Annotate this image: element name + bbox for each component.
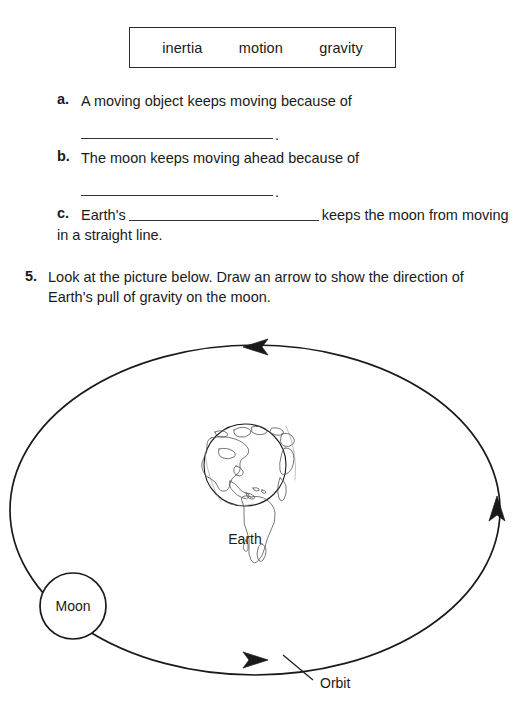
answer-period-a: . xyxy=(275,130,279,140)
fill-in-item-a: a. A moving object keeps moving because … xyxy=(57,91,512,111)
question-text: Look at the picture below. Draw an arrow… xyxy=(48,268,505,307)
item-marker-c: c. xyxy=(57,205,69,221)
item-text-c: Earth'skeeps the moon from moving in a s… xyxy=(57,207,509,243)
worksheet-page: inertia motion gravity a. A moving objec… xyxy=(0,0,532,706)
word-bank-item-inertia: inertia xyxy=(162,40,202,56)
item-marker-b: b. xyxy=(57,148,70,164)
question-number: 5. xyxy=(25,268,37,284)
answer-blank-b[interactable] xyxy=(81,195,273,196)
answer-blank-a[interactable] xyxy=(81,138,273,139)
item-marker-a: a. xyxy=(57,91,69,107)
word-bank-box: inertia motion gravity xyxy=(129,27,396,68)
earth-label: Earth xyxy=(228,531,261,547)
fill-in-item-b: b. The moon keeps moving ahead because o… xyxy=(57,148,512,168)
question-5: 5. Look at the picture below. Draw an ar… xyxy=(25,268,505,307)
answer-blank-c[interactable] xyxy=(129,207,319,221)
item-text-a: A moving object keeps moving because of xyxy=(81,93,352,109)
orbit-leader-line xyxy=(283,655,313,680)
answer-period-b: . xyxy=(275,187,279,197)
item-c-text-before: Earth's xyxy=(81,207,126,223)
moon-label: Moon xyxy=(55,598,90,614)
word-bank-item-motion: motion xyxy=(239,40,283,56)
word-bank-item-gravity: gravity xyxy=(319,40,362,56)
item-text-b: The moon keeps moving ahead because of xyxy=(81,150,359,166)
orbit-diagram: Earth Moon Orbit xyxy=(0,318,532,706)
orbit-arrowhead-right xyxy=(489,496,505,521)
orbit-arrowhead-top xyxy=(243,339,268,355)
orbit-label: Orbit xyxy=(320,675,350,691)
fill-in-item-c: c. Earth'skeeps the moon from moving in … xyxy=(57,205,512,245)
orbit-arrowhead-bottom xyxy=(243,652,268,668)
